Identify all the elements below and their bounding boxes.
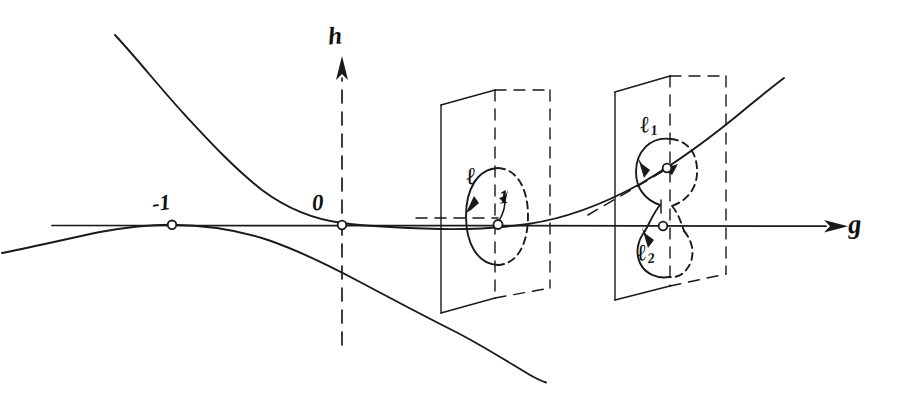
h-axis-label: h [327, 21, 343, 50]
loop-l2-label: ℓ2 [635, 239, 656, 269]
right-plane-top-front [615, 76, 670, 92]
lower-branch-path [2, 225, 546, 383]
loop-l1-label: ℓ1 [638, 111, 659, 141]
middle-plane [416, 90, 550, 313]
h-axis [336, 56, 348, 345]
point-marker-zero [338, 221, 347, 230]
figure-eight-waist-right [672, 206, 684, 231]
g-axis-label: g [847, 209, 863, 241]
loop-l2-center-point [659, 222, 668, 231]
right-plane [588, 76, 726, 300]
loop-l-back-arc [498, 168, 528, 265]
middle-plane-bottom-back [495, 288, 550, 298]
middle-plane-top-front [441, 90, 495, 105]
middle-plane-bottom-front [441, 298, 495, 313]
curve-lower-branch [2, 225, 546, 383]
figure-eight-waist-left [645, 205, 660, 231]
loop-l1 [636, 139, 697, 206]
point-label-minus-one: -1 [150, 189, 171, 217]
right-plane-curve-trace [588, 166, 672, 215]
loop-l-center-point [494, 220, 503, 229]
point-marker-minus-one [168, 221, 177, 230]
h-axis-arrowhead [336, 56, 348, 80]
diagram-svg [0, 0, 916, 413]
right-plane-bottom-front [615, 286, 670, 300]
loop-l1-center-point [663, 164, 672, 173]
loop-l1-orientation-arrow [638, 158, 650, 178]
figure-canvas: g h -1 0 ℓ 1 ℓ1 ℓ2 [0, 0, 916, 413]
g-axis-arrowhead [824, 220, 848, 232]
point-label-zero: 0 [311, 190, 324, 217]
loop-l2-back-arc [669, 231, 692, 277]
